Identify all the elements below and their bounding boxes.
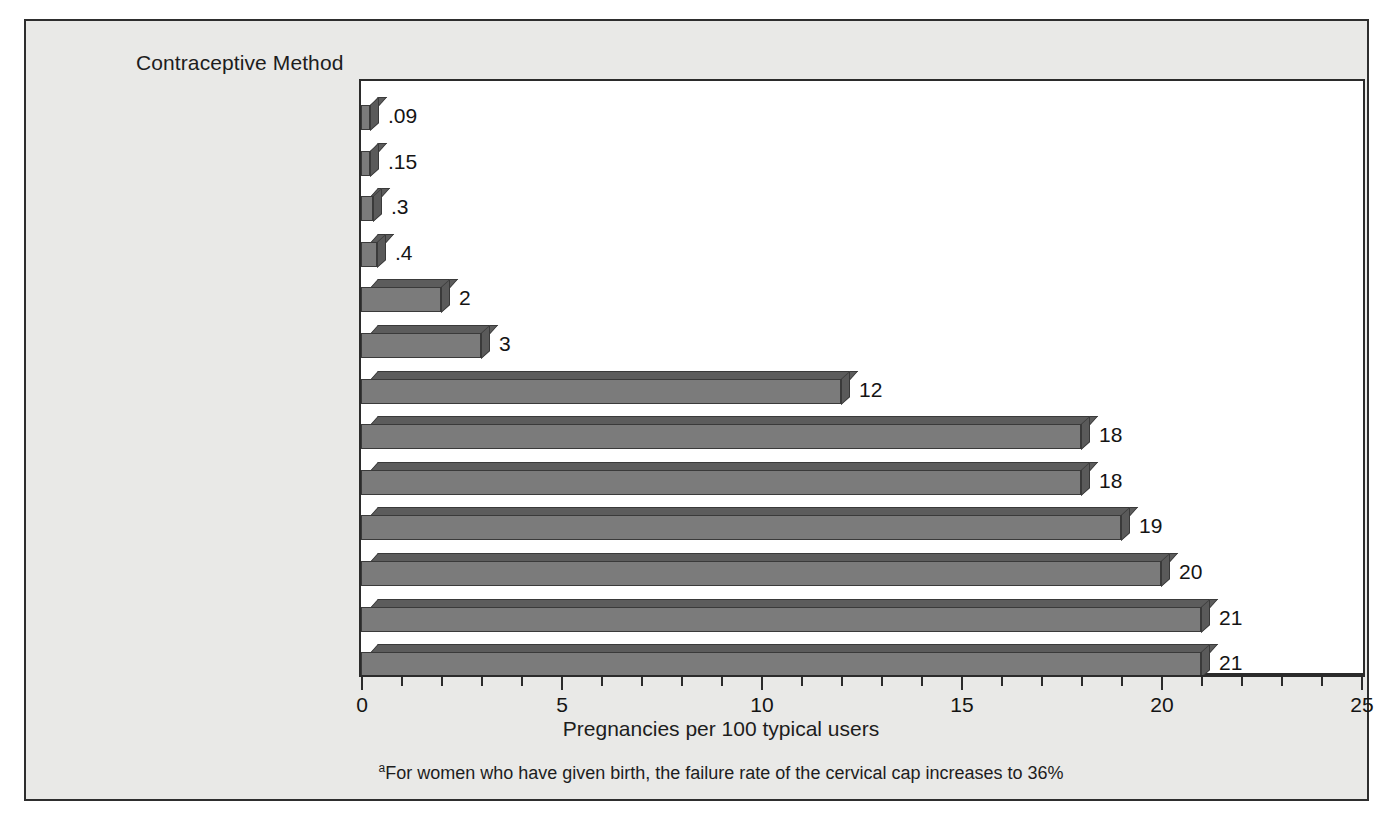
x-axis-tick-label: 15 bbox=[950, 693, 973, 717]
bar-value-label: 18 bbox=[1099, 423, 1122, 447]
x-axis-tick-label: 20 bbox=[1150, 693, 1173, 717]
bar-side-face bbox=[481, 325, 490, 359]
bar-side-face bbox=[1161, 553, 1170, 587]
y-axis-title: Contraceptive Method bbox=[136, 51, 343, 75]
bar-side-face bbox=[441, 279, 450, 313]
x-axis-major-tick bbox=[1161, 675, 1163, 690]
x-axis-minor-tick bbox=[1001, 675, 1003, 686]
bar-value-label: .15 bbox=[388, 150, 417, 174]
x-axis-tick-label: 5 bbox=[556, 693, 568, 717]
x-axis-major-tick bbox=[561, 675, 563, 690]
bar-front-face bbox=[361, 607, 1201, 632]
bar-value-label: 12 bbox=[859, 378, 882, 402]
bar-front-face bbox=[361, 333, 481, 358]
x-axis-title: Pregnancies per 100 typical users bbox=[26, 717, 1390, 741]
bar-value-label: 19 bbox=[1139, 514, 1162, 538]
bar-value-label: 20 bbox=[1179, 560, 1202, 584]
x-axis bbox=[359, 675, 1365, 677]
x-axis-major-tick bbox=[361, 675, 363, 690]
bar-value-label: .3 bbox=[391, 195, 409, 219]
bar-value-label: 21 bbox=[1219, 606, 1242, 630]
bar-value-label: 21 bbox=[1219, 651, 1242, 675]
bar-value-label: .4 bbox=[395, 241, 413, 265]
bar-value-label: .09 bbox=[388, 104, 417, 128]
x-axis-minor-tick bbox=[1241, 675, 1243, 686]
bar-front-face bbox=[361, 379, 841, 404]
x-axis-minor-tick bbox=[441, 675, 443, 686]
x-axis-minor-tick bbox=[841, 675, 843, 686]
bar-front-face bbox=[361, 470, 1081, 495]
x-axis-minor-tick bbox=[401, 675, 403, 686]
chart-panel: Contraceptive Method .09Norplant.15Male … bbox=[24, 19, 1369, 801]
bar-value-label: 3 bbox=[499, 332, 511, 356]
bar-front-face bbox=[361, 424, 1081, 449]
x-axis-tick-label: 25 bbox=[1350, 693, 1373, 717]
x-axis-minor-tick bbox=[1041, 675, 1043, 686]
bar-side-face bbox=[1081, 416, 1090, 450]
bar-value-label: 2 bbox=[459, 286, 471, 310]
bar-front-face bbox=[361, 652, 1201, 677]
x-axis-minor-tick bbox=[1201, 675, 1203, 686]
figure: Contraceptive Method .09Norplant.15Male … bbox=[0, 0, 1390, 832]
bar-side-face bbox=[370, 97, 379, 131]
footnote: aFor women who have given birth, the fai… bbox=[26, 763, 1390, 784]
footnote-text: For women who have given birth, the fail… bbox=[385, 763, 1063, 783]
bar-side-face bbox=[373, 188, 382, 222]
bar-front-face bbox=[361, 151, 370, 176]
bar-front-face bbox=[361, 242, 377, 267]
bar-side-face bbox=[1201, 644, 1210, 678]
x-axis-minor-tick bbox=[801, 675, 803, 686]
bar-front-face bbox=[361, 196, 373, 221]
bar-front-face bbox=[361, 515, 1121, 540]
bar-rows: .09Norplant.15Male sterilization.3Depo-P… bbox=[361, 81, 1363, 673]
x-axis-tick-label: 10 bbox=[750, 693, 773, 717]
x-axis-major-tick bbox=[1361, 675, 1363, 690]
x-axis-minor-tick bbox=[1121, 675, 1123, 686]
x-axis-minor-tick bbox=[881, 675, 883, 686]
x-axis-major-tick bbox=[961, 675, 963, 690]
x-axis-minor-tick bbox=[921, 675, 923, 686]
plot-area: .09Norplant.15Male sterilization.3Depo-P… bbox=[359, 79, 1365, 675]
x-axis-minor-tick bbox=[681, 675, 683, 686]
x-axis-minor-tick bbox=[521, 675, 523, 686]
x-axis-minor-tick bbox=[1321, 675, 1323, 686]
bar-front-face bbox=[361, 561, 1161, 586]
bar-side-face bbox=[370, 142, 379, 176]
bar-side-face bbox=[1121, 507, 1130, 541]
x-axis-minor-tick bbox=[721, 675, 723, 686]
x-axis-minor-tick bbox=[601, 675, 603, 686]
x-axis-minor-tick bbox=[481, 675, 483, 686]
x-axis-major-tick bbox=[761, 675, 763, 690]
x-axis-minor-tick bbox=[1081, 675, 1083, 686]
x-axis-minor-tick bbox=[641, 675, 643, 686]
bar-value-label: 18 bbox=[1099, 469, 1122, 493]
bar-front-face bbox=[361, 287, 441, 312]
x-axis-tick-label: 0 bbox=[356, 693, 368, 717]
bar-front-face bbox=[361, 105, 370, 130]
x-axis-minor-tick bbox=[1281, 675, 1283, 686]
